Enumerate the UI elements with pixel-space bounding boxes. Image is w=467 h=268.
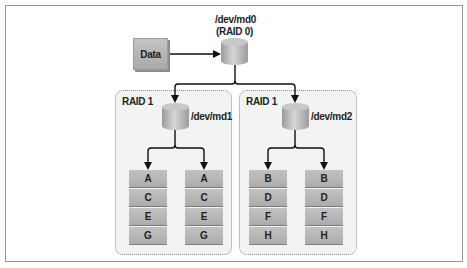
disk-block: F bbox=[305, 208, 343, 226]
md1-cylinder-icon bbox=[162, 103, 189, 130]
disk-block: G bbox=[129, 227, 167, 245]
disk-block: H bbox=[249, 227, 287, 245]
disk-block: A bbox=[185, 170, 223, 188]
disk-stack: A C E G bbox=[185, 170, 223, 246]
disk-block: C bbox=[129, 189, 167, 207]
disk-block: E bbox=[185, 208, 223, 226]
md0-level-label: (RAID 0) bbox=[216, 26, 253, 37]
disk-block: F bbox=[249, 208, 287, 226]
disk-block: D bbox=[249, 189, 287, 207]
disk-stack: B D F H bbox=[249, 170, 287, 246]
disk-block: H bbox=[305, 227, 343, 245]
md0-cylinder-icon bbox=[221, 38, 248, 65]
disk-block: E bbox=[129, 208, 167, 226]
disk-block: G bbox=[185, 227, 223, 245]
md0-device-label: /dev/md0 bbox=[215, 14, 256, 25]
disk-block: B bbox=[249, 170, 287, 188]
disk-stack: B D F H bbox=[305, 170, 343, 246]
disk-block: A bbox=[129, 170, 167, 188]
md2-device-label: /dev/md2 bbox=[311, 111, 352, 122]
disk-stack: A C E G bbox=[129, 170, 167, 246]
data-label: Data bbox=[140, 49, 160, 60]
disk-block: B bbox=[305, 170, 343, 188]
md1-device-label: /dev/md1 bbox=[191, 111, 232, 122]
disk-block: C bbox=[185, 189, 223, 207]
disk-block: D bbox=[305, 189, 343, 207]
data-source-box: Data bbox=[133, 38, 168, 70]
md2-cylinder-icon bbox=[282, 103, 309, 130]
